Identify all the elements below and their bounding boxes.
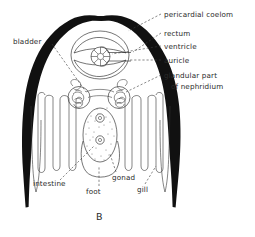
leader-bladder [52,44,86,92]
label-glandular-part: glandular part [164,71,217,80]
glandular-part-of-nephridium-organ [68,80,130,109]
label-auricle: auricle [164,56,190,65]
label-intestine: intestine [33,179,66,188]
gonad-organ [83,108,117,163]
leader-gonad [110,154,116,172]
label-foot: foot [86,187,101,196]
leader-nephridium [126,75,161,92]
figure-caption: B [96,211,103,222]
label-ventricle: ventricle [164,42,197,51]
label-gonad: gonad [112,173,135,182]
label-rectum: rectum [164,29,190,38]
label-pericardial-coelom: pericardial coelom [164,10,233,19]
label-gill: gill [137,185,148,194]
label-of-nephridium: of nephridium [171,82,223,91]
anatomical-figure: pericardial coelom rectum ventricle auri… [0,0,255,237]
leader-gill [145,166,156,184]
label-bladder: bladder [13,37,42,46]
